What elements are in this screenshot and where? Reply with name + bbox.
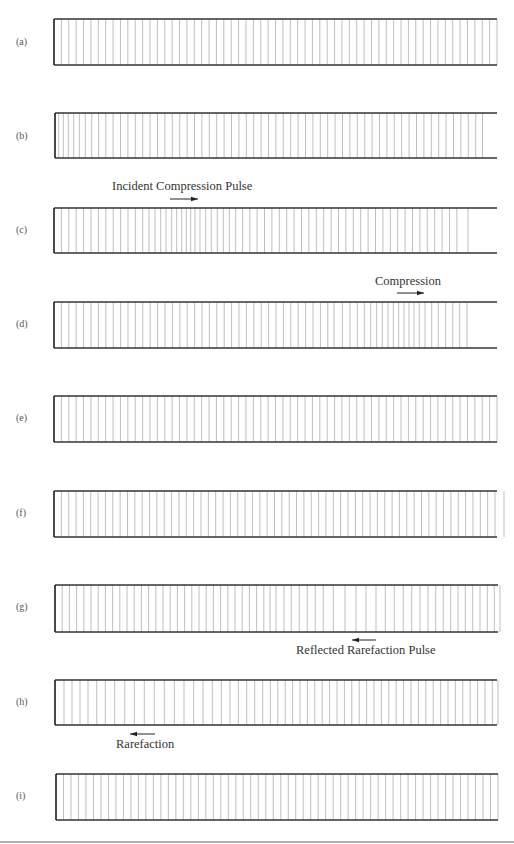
panel-label: (d) — [16, 318, 28, 330]
annotation-label: Compression — [375, 274, 442, 288]
panel-h: (h)Rarefaction — [16, 680, 498, 751]
panel-g: (g)Reflected Rarefaction Pulse — [16, 585, 500, 657]
panel-d: (d)Compression — [16, 274, 497, 348]
panel-a: (a) — [16, 19, 497, 65]
panel-label: (h) — [16, 696, 28, 708]
panel-label: (a) — [16, 36, 27, 48]
arrowhead-icon — [191, 197, 198, 201]
arrowhead-icon — [352, 638, 359, 642]
panel-i: (i) — [16, 774, 498, 820]
panel-f: (f) — [16, 491, 504, 537]
panel-label: (c) — [16, 224, 27, 236]
panel-e: (e) — [16, 396, 497, 442]
particle-lines — [54, 396, 497, 442]
panel-label: (b) — [16, 130, 28, 142]
annotation-label: Rarefaction — [116, 737, 175, 751]
panel-c: (c)Incident Compression Pulse — [16, 179, 497, 253]
panel-label: (g) — [16, 601, 28, 613]
arrowhead-icon — [417, 291, 424, 295]
particle-lines — [54, 491, 504, 537]
panel-label: (e) — [16, 412, 27, 424]
panel-label: (i) — [16, 790, 25, 802]
particle-lines — [56, 774, 498, 820]
particle-lines — [54, 208, 468, 253]
particle-lines — [55, 113, 483, 158]
annotation-label: Reflected Rarefaction Pulse — [296, 643, 436, 657]
panels-group: (a)(b)(c)Incident Compression Pulse(d)Co… — [16, 19, 504, 820]
particle-lines — [54, 19, 497, 65]
particle-lines — [55, 585, 500, 632]
arrowhead-icon — [130, 732, 137, 736]
tube-pulse-diagram: (a)(b)(c)Incident Compression Pulse(d)Co… — [0, 0, 514, 844]
panel-b: (b) — [16, 113, 497, 158]
particle-lines — [55, 680, 498, 725]
particle-lines — [54, 302, 467, 348]
panel-label: (f) — [16, 507, 26, 519]
annotation-label: Incident Compression Pulse — [112, 179, 253, 193]
